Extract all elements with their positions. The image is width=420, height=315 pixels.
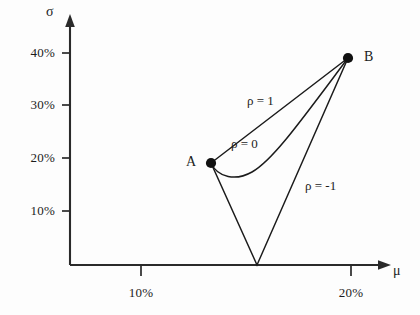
y-tick-marks [62,53,70,211]
y-tick-label-20: 20% [0,151,55,164]
curve-rho-0 [211,58,348,177]
x-tick-marks [141,265,351,276]
y-axis-label: σ [46,5,54,19]
data-point-a-label: A [186,155,196,169]
x-axis-label: μ [393,264,401,278]
y-tick-label-40: 40% [0,46,55,59]
chart-canvas [0,0,420,315]
y-tick-label-10: 10% [0,204,55,217]
curve-label-rho-neg1: ρ = -1 [305,179,336,192]
x-tick-label-10: 10% [111,286,171,299]
x-tick-label-20: 20% [321,286,381,299]
axes-group [65,14,391,270]
y-axis-arrowhead [65,14,75,27]
y-tick-label-30: 30% [0,98,55,111]
curve-label-rho-0: ρ = 0 [231,137,258,150]
curve-rho-neg1 [211,58,348,265]
data-point-b[interactable] [343,53,353,63]
curve-label-rho-1: ρ = 1 [247,94,274,107]
x-axis-arrowhead [378,260,391,270]
data-point-a[interactable] [206,158,216,168]
chart-figure: σ μ 40% 30% 20% 10% 10% 20% A B ρ = 1 ρ … [0,0,420,315]
data-point-b-label: B [364,50,373,64]
